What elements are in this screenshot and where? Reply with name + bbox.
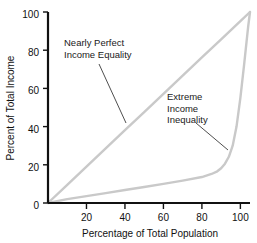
annotation-text-line: Nearly Perfect [64,37,125,48]
x-axis-tick-label: 60 [158,212,170,223]
annotation-text: Nearly PerfectIncome Equality [64,37,132,60]
annotation-text-line: Extreme [167,91,202,102]
annotation-inequality-label: ExtremeIncomeInequality [167,91,228,150]
y-axis-tick-label: 60 [28,85,40,96]
x-axis-tick-labels: 20406080100 [81,212,249,223]
annotations-group: Nearly PerfectIncome EqualityExtremeInco… [64,37,228,150]
x-axis-tick-label: 20 [81,212,93,223]
annotation-text-line: Income Equality [64,49,132,60]
x-axis-tick-label: 40 [119,212,131,223]
annotation-text: ExtremeIncomeInequality [167,91,208,125]
y-axis-title: Percent of Total Income [5,55,16,160]
y-axis-tick-labels: 020406080100 [22,9,39,211]
y-axis-tick-label: 80 [28,47,40,58]
annotation-text-line: Income [167,103,198,114]
axes-group: 020406080100 20406080100 [22,9,250,223]
annotation-equality-label: Nearly PerfectIncome Equality [64,37,132,123]
x-axis-tick-label: 80 [196,212,208,223]
y-axis-tick-label: 20 [28,162,40,173]
chart-canvas: 020406080100 20406080100 Percentage of T… [0,0,257,243]
y-axis-tick-label: 40 [28,124,40,135]
y-axis-tick-label: 0 [33,200,39,211]
x-axis-tick-label: 100 [232,212,249,223]
lorenz-curve-chart: 020406080100 20406080100 Percentage of T… [0,0,257,243]
annotation-leader-line [196,123,228,150]
x-axis-title: Percentage of Total Population [82,228,218,239]
annotation-text-line: Inequality [167,114,208,125]
annotation-leader-line [99,64,126,123]
y-axis-tick-label: 100 [22,9,39,20]
